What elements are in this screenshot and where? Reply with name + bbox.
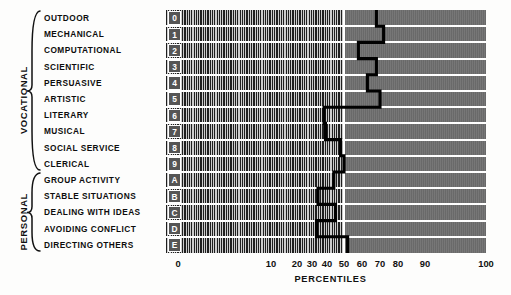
x-tick-0: 0: [175, 258, 180, 269]
x-tick-30: 30: [307, 258, 317, 269]
row-label-4: PERSUASIVE: [44, 75, 102, 91]
group-label-personal: PERSONAL: [18, 193, 29, 251]
x-axis-title: PERCENTILES: [0, 274, 511, 284]
x-tick-50: 50: [339, 258, 349, 269]
row-code-C: C: [168, 206, 181, 219]
x-tick-90: 90: [420, 258, 430, 269]
row-code-6: 6: [168, 109, 181, 122]
profile-line: [166, 10, 486, 253]
row-label-1: MECHANICAL: [44, 26, 104, 42]
row-label-8: SOCIAL SERVICE: [44, 140, 120, 156]
row-label-2: COMPUTATIONAL: [44, 42, 121, 58]
x-tick-20: 20: [292, 258, 302, 269]
row-label-C: DEALING WITH IDEAS: [44, 204, 141, 220]
row-label-5: ARTISTIC: [44, 91, 86, 107]
row-code-7: 7: [168, 125, 181, 138]
row-label-B: STABLE SITUATIONS: [44, 188, 136, 204]
x-tick-100: 100: [478, 258, 494, 269]
row-code-3: 3: [168, 60, 181, 73]
row-code-4: 4: [168, 76, 181, 89]
row-label-9: CLERICAL: [44, 156, 90, 172]
row-label-D: AVOIDING CONFLICT: [44, 221, 136, 237]
row-code-E: E: [168, 238, 181, 251]
row-label-0: OUTDOOR: [44, 10, 90, 26]
group-label-vocational: VOCATIONAL: [18, 66, 29, 134]
row-label-A: GROUP ACTIVITY: [44, 172, 120, 188]
row-label-3: SCIENTIFIC: [44, 59, 95, 75]
row-code-1: 1: [168, 28, 181, 41]
row-label-7: MUSICAL: [44, 123, 85, 139]
kuder-profile-chart: VOCATIONALPERSONAL 0123456789ABCDE OUTDO…: [0, 0, 511, 295]
row-label-E: DIRECTING OTHERS: [44, 237, 134, 253]
row-code-8: 8: [168, 141, 181, 154]
row-code-5: 5: [168, 92, 181, 105]
x-tick-40: 40: [322, 258, 332, 269]
row-code-A: A: [168, 173, 181, 186]
row-code-0: 0: [168, 11, 181, 24]
row-code-9: 9: [168, 157, 181, 170]
x-tick-10: 10: [266, 258, 276, 269]
row-label-6: LITERARY: [44, 107, 89, 123]
x-tick-80: 80: [393, 258, 403, 269]
row-code-B: B: [168, 190, 181, 203]
x-axis-title-text: PERCENTILES: [294, 274, 366, 284]
x-tick-60: 60: [357, 258, 367, 269]
row-code-2: 2: [168, 44, 181, 57]
x-tick-70: 70: [375, 258, 385, 269]
row-code-D: D: [168, 222, 181, 235]
